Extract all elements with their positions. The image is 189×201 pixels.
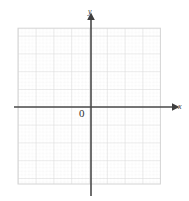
grid-fill xyxy=(18,28,160,184)
coordinate-plane-figure: x y 0 xyxy=(0,0,189,201)
coordinate-plane-svg xyxy=(0,0,189,201)
grid-area xyxy=(18,28,160,184)
y-axis-label: y xyxy=(88,8,92,16)
x-axis-label: x xyxy=(178,103,182,111)
origin-label: 0 xyxy=(79,108,85,119)
